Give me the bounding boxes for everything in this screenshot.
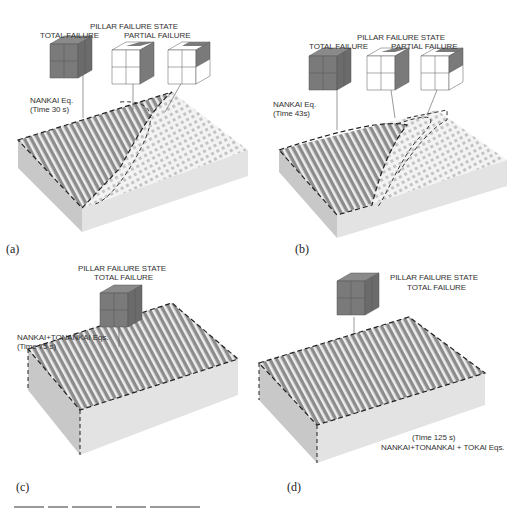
cube-total-failure-icon bbox=[309, 48, 351, 90]
cube-total-failure-icon bbox=[50, 36, 92, 78]
cube-total-failure-icon bbox=[100, 285, 142, 327]
pillar-model-diagram-d bbox=[257, 255, 514, 507]
total-failure-label: TOTAL FAILURE bbox=[94, 273, 153, 282]
total-failure-label: TOTAL FAILURE bbox=[40, 31, 99, 40]
cube-partial-failure-corner-icon bbox=[421, 48, 463, 90]
partial-failure-label: PARTIAL FAILURE bbox=[124, 31, 190, 40]
total-failure-label: TOTAL FAILURE bbox=[407, 283, 466, 292]
time-label: (Time 75 s) bbox=[17, 342, 56, 351]
event-label: NANKAI Eq. bbox=[30, 96, 73, 105]
panel-b: PILLAR FAILURE STATE TOTAL FAILURE PARTI… bbox=[257, 0, 514, 252]
event-label: NANKAI Eq. bbox=[273, 100, 316, 109]
pillar-failure-state-heading: PILLAR FAILURE STATE bbox=[357, 33, 445, 42]
cube-total-failure-icon bbox=[337, 273, 379, 315]
pillar-failure-state-heading: PILLAR FAILURE STATE bbox=[90, 22, 178, 31]
partial-failure-label: PARTIAL FAILURE bbox=[391, 42, 457, 51]
figure-caption-cropped bbox=[14, 506, 234, 509]
total-failure-label: TOTAL FAILURE bbox=[309, 42, 368, 51]
cube-partial-failure-side-icon bbox=[367, 48, 409, 90]
pillar-failure-state-heading: PILLAR FAILURE STATE bbox=[78, 264, 166, 273]
time-label: (Time 43s) bbox=[273, 109, 310, 118]
panel-letter: (c) bbox=[16, 480, 29, 495]
panel-d: PILLAR FAILURE STATE TOTAL FAILURE (Time… bbox=[257, 255, 514, 507]
panel-letter: (d) bbox=[287, 480, 301, 495]
cube-partial-failure-side-icon bbox=[112, 42, 154, 84]
pillar-model-diagram-c bbox=[0, 255, 257, 507]
cube-partial-failure-corner-icon bbox=[168, 42, 210, 84]
time-label: (Time 30 s) bbox=[30, 105, 69, 114]
time-label: (Time 125 s) bbox=[412, 433, 455, 442]
panel-a: PILLAR FAILURE STATE TOTAL FAILURE PARTI… bbox=[0, 0, 257, 252]
event-label: NANKAI+TONANKAI Eqs. bbox=[17, 333, 108, 342]
event-label: NANKAI+TONANKAI + TOKAI Eqs. bbox=[381, 443, 504, 452]
panel-c: PILLAR FAILURE STATE TOTAL FAILURE NANKA… bbox=[0, 255, 257, 507]
pillar-failure-state-heading: PILLAR FAILURE STATE bbox=[390, 273, 478, 282]
